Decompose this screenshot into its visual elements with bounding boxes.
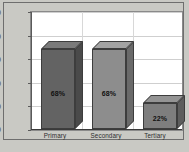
bar-primary-front [41,49,75,129]
ytick-mark-0 [28,130,31,131]
bar-tertiary-side [177,95,185,129]
bar-primary-side [75,41,83,129]
ytick-label-60: 60 [0,56,1,63]
bar-tertiary[interactable]: 22% [143,103,177,129]
bar-tertiary-value: 22% [143,115,177,122]
ytick-label-40: 40 [0,80,1,87]
xtick-label-primary: Primary [27,132,83,139]
bar-primary[interactable]: 68% [41,49,75,129]
ytick-mark-20 [28,106,31,107]
bar-secondary-side [126,41,134,129]
y-axis-line [31,12,32,130]
ytick-mark-60 [28,59,31,60]
bar-primary-value: 68% [41,90,75,97]
gridline-80 [31,36,182,37]
xtick-label-secondary: Secondary [78,132,134,139]
gridline-100 [31,12,182,13]
chart-frame: 100 80 60 40 20 0 % of each age group in… [3,2,184,140]
ytick-label-80: 80 [0,33,1,40]
ytick-label-20: 20 [0,103,1,110]
ytick-mark-40 [28,83,31,84]
ytick-mark-100 [28,12,31,13]
x-axis-line [31,129,182,130]
bar-secondary[interactable]: 68% [92,49,126,129]
xtick-label-tertiary: Tertiary [129,132,181,139]
ytick-label-0: 0 [0,126,1,133]
bar-chart-figure: 100 80 60 40 20 0 % of each age group in… [0,0,189,152]
bar-secondary-value: 68% [92,90,126,97]
ytick-label-100: 100 [0,9,1,16]
bar-secondary-front [92,49,126,129]
ytick-mark-80 [28,36,31,37]
plot-area: 100 80 60 40 20 0 % of each age group in… [30,11,183,131]
